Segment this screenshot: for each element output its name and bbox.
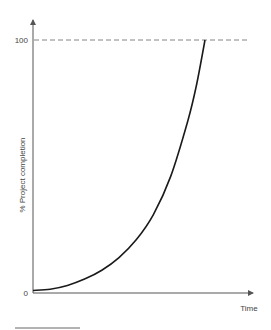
x-axis-label: Time bbox=[240, 304, 258, 313]
y-tick-label-0: 0 bbox=[24, 289, 29, 298]
y-tick-label-100: 100 bbox=[15, 36, 29, 45]
y-axis-label: % Project completion bbox=[18, 137, 27, 212]
chart: 100 0 % Project completion Time bbox=[0, 0, 271, 330]
series-line-completion bbox=[33, 40, 205, 290]
